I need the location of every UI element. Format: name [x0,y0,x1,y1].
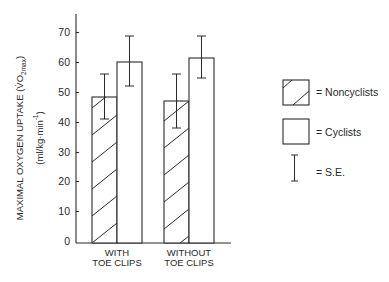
x-category-without-toe-clips: WITHOUT TOE CLIPS [149,248,229,268]
bar-cyclists-without-toe-clips [189,58,214,243]
legend-label-cyclists: = Cyclists [316,126,361,138]
y-axis-title: MAXIMAL OXYGEN UPTAKE (V̇O2max) (ml/kg·m… [6,0,54,282]
y-axis-title-line2: (ml/kg·min-1) [30,56,45,220]
x-category-with-toe-clips: WITH TOE CLIPS [77,248,157,268]
bar-cyclists-with-toe-clips [117,62,142,243]
y-axis-title-line1: MAXIMAL OXYGEN UPTAKE (V̇O2max) [14,56,30,220]
legend-label-noncyclists: = Noncyclists [316,86,378,98]
legend-noncyclists-swatch [283,80,309,105]
legend-se-icon [291,155,298,181]
legend-cyclists-swatch [283,119,309,144]
legend-label-se: = S.E. [316,166,345,178]
y-axis [76,14,79,243]
